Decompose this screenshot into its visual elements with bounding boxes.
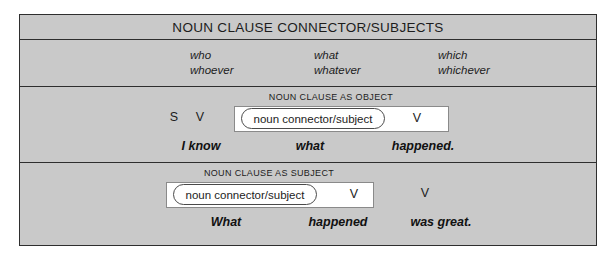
object-noun-connector-oval: noun connector/subject [241, 108, 385, 129]
object-example-part-3: happened. [392, 139, 455, 153]
noun-clause-chart: NOUN CLAUSE CONNECTOR/SUBJECTS who whoev… [19, 14, 597, 246]
noun-clause-as-object-section: NOUN CLAUSE AS OBJECT S V noun connector… [20, 87, 596, 163]
object-clause-box: noun connector/subject V [234, 106, 449, 132]
connector-word-column-3: which whichever [438, 48, 562, 78]
subject-example-part-3: was great. [410, 215, 471, 229]
subject-example-part-1: What [211, 215, 242, 229]
subject-outer-verb-label: V [421, 186, 429, 200]
connector-word-column-2: what whatever [314, 48, 438, 78]
subject-section-caption: NOUN CLAUSE AS SUBJECT [204, 168, 334, 178]
chart-title-row: NOUN CLAUSE CONNECTOR/SUBJECTS [20, 15, 596, 40]
object-subject-label: S [170, 110, 178, 124]
connector-word-column-1: who whoever [190, 48, 314, 78]
noun-clause-as-subject-section: NOUN CLAUSE AS SUBJECT noun connector/su… [20, 163, 596, 239]
subject-oval-label: noun connector/subject [186, 189, 305, 201]
connector-word-which: which [438, 48, 562, 63]
connector-word-whoever: whoever [190, 63, 314, 78]
chart-title: NOUN CLAUSE CONNECTOR/SUBJECTS [172, 20, 443, 35]
object-clause-verb-label: V [413, 111, 421, 125]
object-section-caption: NOUN CLAUSE AS OBJECT [269, 92, 393, 102]
object-verb-label: V [196, 110, 204, 124]
subject-clause-verb-label: V [350, 187, 358, 201]
connector-word-whatever: whatever [314, 63, 438, 78]
subject-example-part-2: happened [308, 215, 367, 229]
object-oval-label: noun connector/subject [254, 113, 373, 125]
object-example-part-1: I know [182, 139, 221, 153]
connector-words-row: who whoever what whatever which whicheve… [20, 40, 596, 87]
object-example-part-2: what [296, 139, 324, 153]
subject-clause-box: noun connector/subject V [166, 182, 374, 208]
connector-word-who: who [190, 48, 314, 63]
connector-word-whichever: whichever [438, 63, 562, 78]
subject-noun-connector-oval: noun connector/subject [173, 184, 317, 205]
connector-word-what: what [314, 48, 438, 63]
